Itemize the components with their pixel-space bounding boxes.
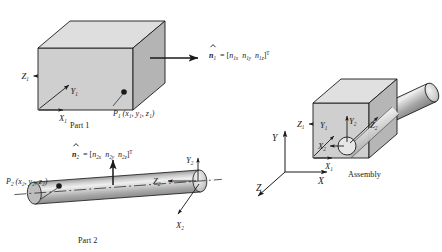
assembly-caption: Assembly [348,170,382,179]
part2-point-label: P2 (x₂, y₂, z₂) [5,177,48,187]
diagram-svg: Z1 Y1 X1 P1 (x₁, y₁, z₁) n1 = [n1x n1y n… [0,0,442,252]
part1-axis-x-label: X1 [58,113,67,124]
part1-point-marker [121,89,127,95]
part2-caption: Part 2 [78,236,97,245]
assembly-group: Z1 Y1 X1 Y2 Z2 X2 Assembly [297,79,442,179]
figure-canvas: Z1 Y1 X1 P1 (x₁, y₁, z₁) n1 = [n1x n1y n… [0,0,442,252]
part1-group: Z1 Y1 X1 P1 (x₁, y₁, z₁) n1 = [n1x n1y n… [22,21,271,130]
part1-caption: Part 1 [70,121,89,130]
part2-normal-equation: n2 = [n2x n2y n2z]T [72,144,133,160]
svg-text:n1 = [n1x n1y n1z]T: n1 = [n1x n1y n1z]T [209,50,270,61]
part1-axis-z-label: Z1 [22,71,30,82]
global-axis-z-label: Z [256,182,262,193]
svg-text:n2 = [n2x n2y n2z]T: n2 = [n2x n2y n2z]T [72,149,133,160]
assembly-axis-x1-label: X1 [324,161,333,172]
part2-axis-y-label: Y2 [186,155,194,166]
assembly-axis-z1-label: Z1 [297,119,305,130]
part1-point-label: P1 (x₁, y₁, z₁) [112,109,155,119]
part2-cylinder [14,168,223,205]
part1-box-front-face [38,48,133,110]
global-axis-x-label: X [317,175,325,186]
global-axis-z-line [258,172,285,196]
part1-normal-equation: n1 = [n1x n1y n1z]T [209,45,270,61]
part2-group: P2 (x₂, y₂, z₂) n2 = [n2x n2y n2z]T Y2 Z… [5,144,223,245]
part2-axis-x-label: X2 [175,220,184,231]
global-axis-y-label: Y [272,132,279,143]
